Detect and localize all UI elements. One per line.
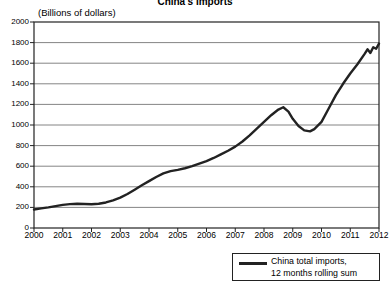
y-axis-tick-label: 800 bbox=[1, 142, 29, 150]
y-axis-tick-label: 1800 bbox=[1, 39, 29, 47]
data-series-line bbox=[34, 44, 379, 210]
y-axis-tick-label: 600 bbox=[1, 162, 29, 170]
y-axis-tick-label: 1200 bbox=[1, 100, 29, 108]
y-axis-tick-label: 1600 bbox=[1, 59, 29, 67]
legend-label-line1: China total imports, bbox=[271, 256, 347, 266]
y-axis-tick-label: 1000 bbox=[1, 121, 29, 129]
plot-area bbox=[0, 0, 390, 285]
chart-legend: China total imports,12 months rolling su… bbox=[232, 253, 380, 281]
y-axis-tick-label: 400 bbox=[1, 183, 29, 191]
y-axis-tick-label: 200 bbox=[1, 203, 29, 211]
x-axis-tick-label: 2012 bbox=[362, 231, 390, 240]
legend-line-swatch bbox=[239, 262, 267, 265]
y-axis-tick-label: 2000 bbox=[1, 18, 29, 26]
y-axis-tick-label: 1400 bbox=[1, 80, 29, 88]
legend-label: China total imports,12 months rolling su… bbox=[271, 256, 357, 279]
chart-container: China's Imports (Billions of dollars) 20… bbox=[0, 0, 390, 285]
gridlines bbox=[34, 43, 379, 208]
legend-label-line2: 12 months rolling sum bbox=[271, 268, 357, 278]
